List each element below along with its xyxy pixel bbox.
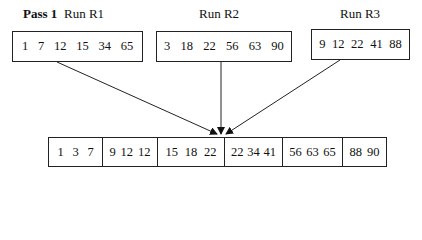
output-value: 7 xyxy=(87,145,93,160)
output-value: 9 xyxy=(109,145,115,160)
output-block: 1 3 7 xyxy=(49,138,103,166)
arrow-r1 xyxy=(57,62,217,134)
output-block: 15 18 22 xyxy=(158,138,225,166)
output-block: 88 90 xyxy=(343,138,386,166)
output-block: 56 63 65 xyxy=(283,138,343,166)
output-value: 63 xyxy=(306,145,319,160)
output-value: 34 xyxy=(247,145,260,160)
output-value: 41 xyxy=(264,145,277,160)
output-value: 15 xyxy=(165,145,178,160)
output-value: 3 xyxy=(72,145,78,160)
output-value: 18 xyxy=(185,145,198,160)
output-value: 65 xyxy=(323,145,336,160)
output-value: 12 xyxy=(121,145,134,160)
output-value: 1 xyxy=(57,145,63,160)
output-value: 12 xyxy=(138,145,151,160)
output-block: 22 34 41 xyxy=(225,138,283,166)
output-block: 9 12 12 xyxy=(103,138,158,166)
output-array: 1 3 7 9 12 12 15 18 22 22 34 41 56 63 65… xyxy=(48,137,387,167)
output-value: 22 xyxy=(231,145,244,160)
output-value: 88 xyxy=(350,145,363,160)
arrow-r3 xyxy=(226,60,340,134)
output-value: 22 xyxy=(204,145,217,160)
output-value: 56 xyxy=(289,145,302,160)
output-value: 90 xyxy=(367,145,380,160)
